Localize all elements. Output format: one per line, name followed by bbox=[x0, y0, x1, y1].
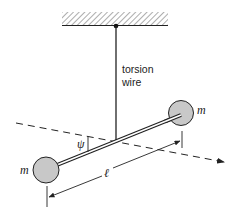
angle-psi-label: ψ bbox=[77, 137, 85, 151]
mass-right bbox=[169, 101, 194, 126]
mass-left bbox=[33, 157, 59, 183]
dim-line-left bbox=[49, 176, 102, 197]
ceiling-support bbox=[62, 12, 168, 26]
length-label: ℓ bbox=[104, 166, 109, 180]
torsion-label-line2: wire bbox=[121, 76, 141, 88]
mass-label-right: m bbox=[197, 103, 206, 117]
torsion-pendulum-diagram: torsion wire m m ψ ℓ bbox=[0, 0, 236, 221]
rotation-axis bbox=[16, 123, 224, 162]
mass-label-left: m bbox=[20, 163, 29, 177]
dim-line-right bbox=[113, 141, 180, 168]
rod bbox=[47, 115, 181, 169]
torsion-label-line1: torsion bbox=[122, 63, 154, 75]
ceiling-hatch bbox=[62, 12, 168, 25]
